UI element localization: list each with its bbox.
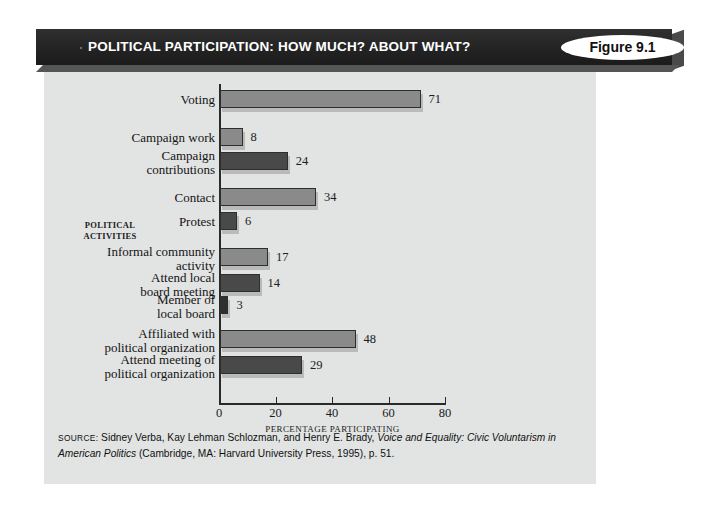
x-axis-tick (332, 397, 333, 404)
source-label: SOURCE: (58, 433, 98, 443)
bar-value-label: 71 (429, 92, 442, 107)
x-axis-tick-label: 60 (382, 406, 395, 421)
x-axis-tick (389, 397, 390, 404)
bar-row[interactable]: Attend meeting ofpolitical organization2… (44, 356, 596, 376)
x-axis-tick-label: 0 (216, 406, 222, 421)
bar-label-line: Informal community (0, 245, 215, 259)
bar-label: Informal communityactivity (0, 245, 215, 272)
bar[interactable] (220, 152, 288, 170)
y-axis-title-line: ACTIVITIES (64, 231, 156, 242)
bar-label-line: Contact (0, 191, 215, 205)
source-text-1: Sidney Verba, Kay Lehman Schlozman, and … (98, 432, 377, 443)
bar[interactable] (220, 356, 302, 374)
x-axis-tick (276, 397, 277, 404)
bar-value-label: 17 (276, 250, 289, 265)
bar[interactable] (220, 248, 268, 266)
bar-row[interactable]: Member oflocal board3 (44, 296, 596, 316)
bar-value-label: 24 (296, 154, 309, 169)
bar-label: Campaigncontributions (0, 149, 215, 176)
bar-value-label: 8 (251, 130, 257, 145)
bar[interactable] (220, 128, 243, 146)
bar-value-label: 14 (268, 276, 281, 291)
x-axis-tick-label: 40 (326, 406, 339, 421)
source-text-2: (Cambridge, MA: Harvard University Press… (136, 448, 394, 459)
x-axis-tick (219, 397, 220, 404)
bar-row[interactable]: Campaigncontributions24 (44, 152, 596, 172)
bar-label: Contact (0, 191, 215, 205)
bar[interactable] (220, 274, 260, 292)
bar-row[interactable]: Protest6 (44, 212, 596, 232)
bar-value-label: 6 (245, 214, 251, 229)
x-axis-tick-label: 80 (439, 406, 452, 421)
header-bullet-icon (80, 47, 82, 49)
bar-label-line: Attend local (0, 271, 215, 285)
bar-label-line: Campaign work (0, 131, 215, 145)
page-title: POLITICAL PARTICIPATION: HOW MUCH? ABOUT… (88, 29, 470, 65)
bar-label-line: Protest (0, 215, 215, 229)
bar-label-line: Voting (0, 93, 215, 107)
header-bar: POLITICAL PARTICIPATION: HOW MUCH? ABOUT… (36, 29, 672, 65)
bar-label-line: local board (0, 307, 215, 321)
bar[interactable] (220, 330, 356, 348)
bar-row[interactable]: Attend localboard meeting14 (44, 274, 596, 294)
bar[interactable] (220, 296, 228, 314)
source-note: SOURCE: Sidney Verba, Kay Lehman Schlozm… (58, 430, 582, 461)
bar-row[interactable]: Affiliated withpolitical organization48 (44, 330, 596, 350)
bar-label-line: political organization (0, 367, 215, 381)
bar-value-label: 34 (324, 190, 337, 205)
bar-value-label: 48 (364, 332, 377, 347)
bar-chart: POLITICALACTIVITIES PERCENTAGE PARTICIPA… (44, 72, 596, 422)
bar-row[interactable]: Voting71 (44, 90, 596, 110)
header-bevel-bottom (36, 65, 679, 72)
bar-label: Campaign work (0, 131, 215, 145)
figure-header: POLITICAL PARTICIPATION: HOW MUCH? ABOUT… (36, 29, 688, 73)
bar-label-line: Attend meeting of (0, 353, 215, 367)
figure-panel: POLITICALACTIVITIES PERCENTAGE PARTICIPA… (44, 72, 596, 484)
source-italic-1: Voice and Equality: Civic (377, 432, 489, 443)
x-axis-tick (445, 397, 446, 404)
figure-number-badge: Figure 9.1 (561, 35, 684, 60)
bar-label: Voting (0, 93, 215, 107)
x-axis-tick-label: 20 (269, 406, 282, 421)
bar-label-line: Campaign (0, 149, 215, 163)
bar-label-line: Affiliated with (0, 327, 215, 341)
bar-label: Attend meeting ofpolitical organization (0, 353, 215, 380)
bar[interactable] (220, 212, 237, 230)
bar-label: Affiliated withpolitical organization (0, 327, 215, 354)
bar-row[interactable]: Informal communityactivity17 (44, 248, 596, 268)
bar-label: Protest (0, 215, 215, 229)
bar-row[interactable]: Contact34 (44, 188, 596, 208)
bar-row[interactable]: Campaign work8 (44, 128, 596, 148)
bar-label-line: Member of (0, 293, 215, 307)
bar-label-line: contributions (0, 163, 215, 177)
bar[interactable] (220, 90, 421, 108)
bar-label: Member oflocal board (0, 293, 215, 320)
bar-value-label: 3 (236, 298, 242, 313)
figure-root: POLITICAL PARTICIPATION: HOW MUCH? ABOUT… (0, 0, 708, 506)
bar-value-label: 29 (310, 358, 323, 373)
bar[interactable] (220, 188, 316, 206)
